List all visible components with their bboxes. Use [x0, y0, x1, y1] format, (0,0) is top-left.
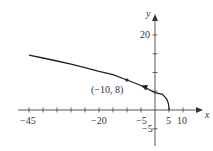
- y-axis-label: y: [145, 8, 151, 19]
- y-axis-arrow-icon: [152, 14, 158, 21]
- y-tick-label-20: 20: [140, 29, 150, 40]
- y-tick-label-minus-5: −5: [142, 123, 153, 134]
- point-minus10-8: [125, 78, 128, 81]
- x-tick-label-minus-45: −45: [20, 115, 36, 126]
- x-tick-label-minus-20: −20: [91, 115, 107, 126]
- point-annotation: (−10, 8): [91, 84, 123, 96]
- curve: [29, 55, 169, 110]
- x-axis-arrow-icon: [196, 107, 203, 113]
- x-axis-label: x: [204, 109, 210, 120]
- x-tick-label-5: 5: [166, 115, 171, 126]
- parametric-curve-chart: −45 −20 −5 5 10 20 −5 x y (−10, 8): [0, 0, 213, 151]
- x-tick-label-10: 10: [177, 115, 187, 126]
- orientation-arrow-icon: [141, 85, 148, 91]
